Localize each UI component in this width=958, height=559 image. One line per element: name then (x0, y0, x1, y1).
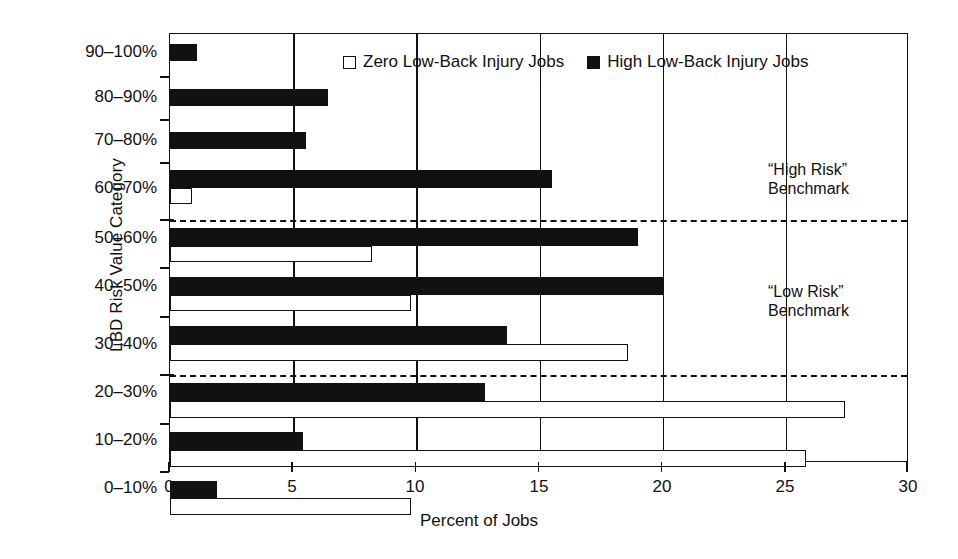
legend-item-high-low-back-injury-jobs: High Low-Back Injury Jobs (587, 52, 808, 72)
bar-high-0-10 (170, 481, 217, 498)
gridline-15 (540, 34, 541, 461)
y-tick-0 (160, 76, 169, 78)
low-risk-benchmark-line1: “Low Risk” (768, 282, 849, 301)
bar-zero-50-60 (170, 246, 372, 262)
bar-high-90-100 (170, 44, 197, 61)
bar-zero-40-50 (170, 295, 411, 311)
x-label-15: 15 (530, 477, 549, 497)
bar-zero-10-20 (170, 450, 806, 467)
x-axis-title: Percent of Jobs (0, 511, 958, 531)
x-label-5: 5 (287, 477, 296, 497)
x-tick-15 (538, 462, 540, 472)
y-label-0-10: 0–10% (0, 478, 157, 498)
x-tick-20 (661, 462, 663, 472)
low-risk-benchmark-line2: Benchmark (768, 301, 849, 320)
y-label-40-50: 40–50% (0, 276, 157, 296)
y-label-70-80: 70–80% (0, 130, 157, 150)
bar-high-70-80 (170, 132, 306, 149)
y-tick-5 (160, 316, 169, 318)
y-tick-4 (160, 267, 169, 269)
x-tick-0 (168, 462, 170, 472)
x-tick-5 (291, 462, 293, 472)
y-tick-1 (160, 119, 169, 121)
low-risk-benchmark-label: “Low Risk” Benchmark (768, 282, 849, 320)
gridline-20 (663, 34, 664, 461)
high-risk-benchmark-label: “High Risk” Benchmark (768, 160, 849, 198)
bar-high-60-70 (170, 170, 552, 188)
x-label-25: 25 (776, 477, 795, 497)
bar-high-80-90 (170, 89, 328, 106)
y-label-10-20: 10–20% (0, 430, 157, 450)
x-label-20: 20 (653, 477, 672, 497)
bar-high-40-50 (170, 277, 663, 295)
legend-item-zero-low-back-injury-jobs: Zero Low-Back Injury Jobs (343, 52, 564, 72)
plot-area (169, 33, 908, 462)
chart-figure: LBD Risk Value Category (0, 0, 958, 559)
high-risk-benchmark-line1: “High Risk” (768, 160, 849, 179)
y-tick-7 (160, 423, 169, 425)
legend-swatch-white-icon (343, 56, 356, 69)
y-tick-6 (160, 374, 169, 376)
y-axis-title: LBD Risk Value Category (107, 45, 127, 465)
x-label-30: 30 (899, 477, 918, 497)
gridline-25 (786, 34, 787, 461)
bar-zero-60-70 (170, 188, 192, 204)
y-label-30-40: 30–40% (0, 334, 157, 354)
bar-zero-30-40 (170, 344, 628, 361)
legend-swatch-black-icon (587, 56, 600, 69)
x-tick-25 (784, 462, 786, 472)
y-label-50-60: 50–60% (0, 228, 157, 248)
x-tick-10 (415, 462, 417, 472)
high-risk-benchmark-line2: Benchmark (768, 179, 849, 198)
bar-high-50-60 (170, 228, 638, 246)
bar-high-10-20 (170, 432, 303, 450)
y-label-20-30: 20–30% (0, 382, 157, 402)
legend-label-zero: Zero Low-Back Injury Jobs (363, 52, 564, 72)
y-tick-3 (160, 219, 169, 221)
legend-label-high: High Low-Back Injury Jobs (607, 52, 808, 72)
x-label-0: 0 (164, 477, 173, 497)
bar-high-20-30 (170, 383, 485, 401)
low-risk-benchmark-line (170, 375, 907, 377)
y-tick-2 (160, 162, 169, 164)
chart-legend: Zero Low-Back Injury Jobs High Low-Back … (343, 52, 809, 72)
y-label-90-100: 90–100% (0, 42, 157, 62)
bar-high-30-40 (170, 326, 507, 344)
x-label-10: 10 (406, 477, 425, 497)
bar-zero-20-30 (170, 401, 845, 418)
x-tick-30 (906, 462, 908, 472)
high-risk-benchmark-line (170, 220, 907, 222)
y-label-60-70: 60–70% (0, 178, 157, 198)
y-label-80-90: 80–90% (0, 87, 157, 107)
